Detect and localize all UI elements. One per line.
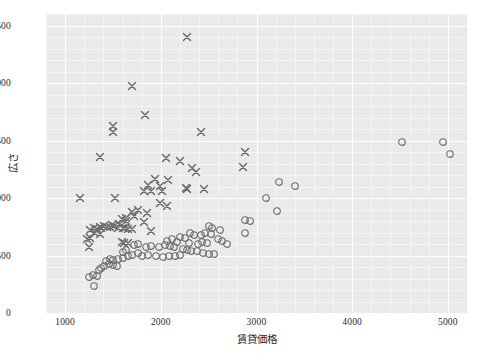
data-point-circle <box>439 137 448 146</box>
data-point-circle <box>130 241 139 250</box>
data-point-circle <box>112 261 121 270</box>
data-point-cross <box>181 183 190 192</box>
data-point-cross <box>163 175 172 184</box>
gridline-vertical <box>257 14 258 313</box>
data-point-cross <box>147 187 156 196</box>
y-axis-label: 広さ <box>5 153 20 173</box>
data-point-circle <box>187 246 196 255</box>
data-point-cross <box>130 212 139 221</box>
gridline-horizontal <box>46 83 467 84</box>
data-point-circle <box>445 149 454 158</box>
x-tick-label: 3000 <box>247 317 267 327</box>
data-point-circle <box>108 256 117 265</box>
data-point-cross <box>106 222 115 231</box>
gridline-horizontal <box>46 26 467 27</box>
data-point-circle <box>202 238 211 247</box>
x-tick-label: 5000 <box>438 317 458 327</box>
data-point-cross <box>161 154 170 163</box>
y-tick-label: 2000 <box>0 78 11 88</box>
gridline-horizontal <box>46 141 467 142</box>
data-point-circle <box>241 215 250 224</box>
data-point-cross <box>113 223 122 232</box>
x-tick-label: 2000 <box>151 317 171 327</box>
x-tick-label: 1000 <box>55 317 75 327</box>
data-point-cross <box>147 226 156 235</box>
gridline-vertical <box>352 14 353 313</box>
y-tick-label: 1000 <box>0 193 11 203</box>
data-point-cross <box>144 181 153 190</box>
data-point-circle <box>208 223 217 232</box>
data-point-circle <box>168 235 177 244</box>
data-point-circle <box>206 229 215 238</box>
data-point-cross <box>139 218 148 227</box>
gridline-vertical <box>448 14 449 313</box>
gridline-horizontal <box>46 198 467 199</box>
y-tick-label: 1500 <box>0 136 11 146</box>
gridline-horizontal <box>46 256 467 257</box>
data-point-circle <box>85 273 94 282</box>
data-point-circle <box>397 137 406 146</box>
data-point-cross <box>120 238 129 247</box>
data-point-circle <box>158 252 167 261</box>
y-tick-label: 2500 <box>0 21 11 31</box>
gridline-vertical <box>65 14 66 313</box>
x-tick-label: 4000 <box>342 317 362 327</box>
scatter-plot-figure: 1000200030004000500005001000150020002500… <box>0 0 482 361</box>
data-point-circle <box>184 238 193 247</box>
data-point-circle <box>204 221 213 230</box>
gridline-vertical <box>161 14 162 313</box>
y-tick-label: 0 <box>6 308 11 318</box>
data-point-circle <box>182 246 191 255</box>
data-point-circle <box>97 264 106 273</box>
plot-area <box>46 14 467 313</box>
y-tick-label: 500 <box>0 251 11 261</box>
data-point-cross <box>109 221 118 230</box>
data-point-cross <box>97 223 106 232</box>
data-point-cross <box>139 187 148 196</box>
data-point-cross <box>86 233 95 242</box>
data-point-circle <box>180 234 189 243</box>
x-axis-label: 賃貸価格 <box>46 331 467 346</box>
data-point-circle <box>204 249 213 258</box>
